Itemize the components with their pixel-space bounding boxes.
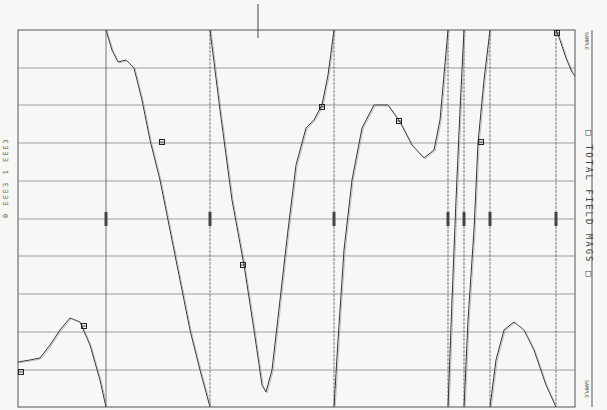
- chart-plot: [0, 0, 607, 410]
- left-annotation: 0 EEE3 1 EEE3: [2, 137, 10, 218]
- legend-label: □ TOTAL FIELD MAGS □: [584, 130, 594, 278]
- data-markers: [19, 31, 560, 375]
- corner-label-bottom: SAMPLE: [584, 380, 590, 398]
- wrap-lines: [105, 30, 558, 407]
- corner-label-top: SAMPLE: [584, 32, 590, 50]
